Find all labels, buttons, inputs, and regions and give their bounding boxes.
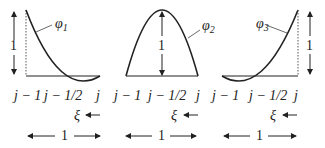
height-label: 1 — [306, 38, 313, 53]
x-label-j-minus-half: j − 1/2 — [42, 88, 82, 103]
x-label-j-minus-1: j − 1 — [12, 88, 41, 103]
x-label-j-minus-half: j − 1/2 — [146, 88, 186, 103]
phi2-label: φ2 — [202, 18, 215, 35]
label-leader — [188, 30, 200, 38]
x-label-j: j — [94, 88, 100, 103]
x-label-j-minus-1: j − 1 — [210, 88, 239, 103]
x-label-j-minus-half: j − 1/2 — [247, 88, 287, 103]
phi1-curve — [26, 10, 100, 81]
xi-label: ξ — [270, 108, 276, 123]
width-label: 1 — [61, 128, 68, 143]
x-label-j: j — [194, 88, 200, 103]
xi-label: ξ — [74, 108, 80, 123]
phi1-label: φ1 — [55, 16, 68, 33]
panel-phi2: 1 φ2 j − 1 j − 1/2 j ξ 1 — [112, 10, 215, 143]
label-leader — [266, 25, 287, 33]
height-label: 1 — [158, 38, 165, 53]
width-label: 1 — [256, 128, 263, 143]
height-label: 1 — [10, 38, 17, 53]
quadratic-basis-functions-diagram: 1 φ1 j − 1 j − 1/2 j ξ 1 1 φ2 j − 1 j − … — [0, 0, 325, 148]
panel-phi1: 1 φ1 j − 1 j − 1/2 j ξ 1 — [10, 10, 100, 143]
width-label: 1 — [158, 128, 165, 143]
label-leader — [36, 25, 52, 32]
x-label-j: j — [292, 88, 298, 103]
x-label-j-minus-1: j − 1 — [112, 88, 141, 103]
panel-phi3: 1 φ3 j − 1 j − 1/2 j ξ 1 — [210, 10, 313, 143]
xi-label: ξ — [171, 108, 177, 123]
phi3-label: φ3 — [256, 16, 269, 33]
